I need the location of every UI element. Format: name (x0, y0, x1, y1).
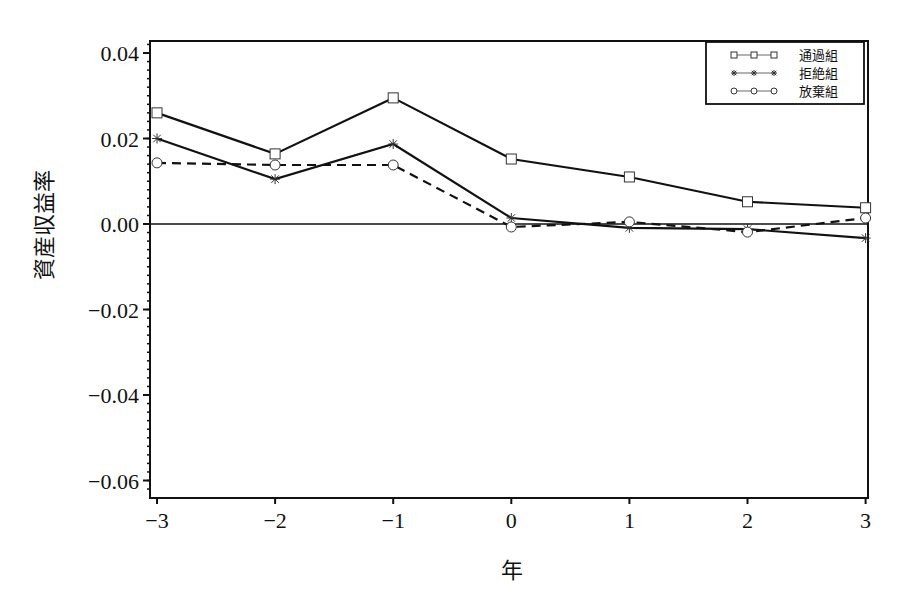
plot-frame (150, 41, 868, 498)
series-line (157, 98, 866, 208)
x-tick-label: −3 (145, 508, 168, 533)
star-marker-icon (771, 70, 777, 76)
y-axis-title: 資産収益率 (32, 170, 57, 280)
star-marker-icon (270, 174, 280, 184)
square-marker-icon (624, 172, 634, 182)
circle-marker-icon (743, 227, 753, 237)
y-tick-label: 0.02 (101, 127, 140, 152)
circle-marker-icon (270, 160, 280, 170)
circle-marker-icon (751, 88, 757, 94)
legend-label: 拒絶組 (799, 66, 838, 81)
star-marker-icon (861, 233, 871, 243)
square-marker-icon (771, 52, 777, 58)
line-chart: 0.040.020.00−0.02−0.04−0.06 −3−2−10123 通… (0, 0, 913, 591)
x-tick-label: 0 (506, 508, 517, 533)
plot-border (150, 41, 868, 498)
y-tick-label: −0.04 (88, 383, 139, 408)
square-marker-icon (270, 149, 280, 159)
square-marker-icon (751, 52, 757, 58)
circle-marker-icon (861, 213, 871, 223)
series-square (152, 93, 871, 213)
circle-marker-icon (506, 222, 516, 232)
x-tick-label: −2 (263, 508, 286, 533)
y-tick-label: −0.02 (88, 298, 139, 323)
x-axis: −3−2−10123 (145, 498, 871, 533)
circle-marker-icon (152, 158, 162, 168)
circle-marker-icon (388, 160, 398, 170)
star-marker-icon (731, 70, 737, 76)
y-axis: 0.040.020.00−0.02−0.04−0.06 (88, 41, 150, 494)
series-layer (152, 93, 871, 243)
square-marker-icon (743, 197, 753, 207)
star-marker-icon (152, 134, 162, 144)
x-tick-label: 2 (742, 508, 753, 533)
square-marker-icon (506, 154, 516, 164)
y-tick-label: 0.04 (101, 41, 140, 66)
legend-box (706, 42, 864, 104)
legend-label: 通過組 (799, 48, 838, 63)
x-tick-label: 3 (860, 508, 871, 533)
circle-marker-icon (771, 88, 777, 94)
y-tick-label: 0.00 (101, 212, 140, 237)
circle-marker-icon (624, 217, 634, 227)
square-marker-icon (388, 93, 398, 103)
series-circle (152, 158, 871, 237)
star-marker-icon (751, 70, 757, 76)
legend-label: 放棄組 (799, 84, 838, 99)
circle-marker-icon (731, 88, 737, 94)
y-tick-label: −0.06 (88, 469, 139, 494)
star-marker-icon (388, 139, 398, 149)
x-axis-title: 年 (501, 558, 523, 583)
x-tick-label: −1 (381, 508, 404, 533)
legend: 通過組拒絶組放棄組 (706, 42, 864, 104)
square-marker-icon (861, 203, 871, 213)
x-tick-label: 1 (624, 508, 635, 533)
square-marker-icon (731, 52, 737, 58)
square-marker-icon (152, 108, 162, 118)
